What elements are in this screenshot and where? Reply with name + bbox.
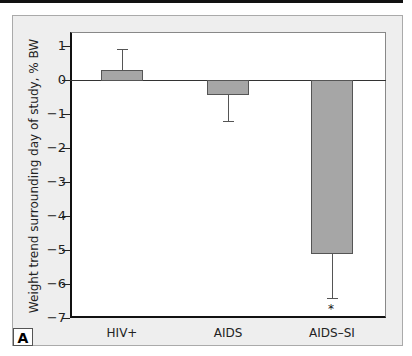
panel-label: A: [13, 328, 33, 346]
error-cap-aids-si: [327, 298, 338, 299]
y-tick-label: −4: [47, 209, 66, 223]
y-tick-label: −6: [47, 277, 66, 291]
error-cap-aids: [223, 121, 234, 122]
y-tick-label: 1: [58, 39, 66, 53]
error-bar-hiv: [122, 49, 123, 70]
y-tick-label: −3: [47, 175, 66, 189]
y-tick-label: −2: [47, 141, 66, 155]
error-bar-aids-si: [332, 254, 333, 298]
error-bar-aids: [228, 95, 229, 121]
x-label-hiv: HIV+: [82, 326, 162, 340]
bar-aids-si: [311, 80, 353, 254]
y-tick-label: −1: [47, 107, 66, 121]
y-tick-label: 0: [58, 73, 66, 87]
bar-aids: [207, 80, 249, 95]
error-cap-hiv: [117, 49, 128, 50]
bar-hiv: [101, 70, 143, 81]
x-label-aids: AIDS: [188, 326, 268, 340]
top-rule: [0, 0, 403, 3]
y-tick-label: −5: [47, 243, 66, 257]
significance-marker: *: [328, 302, 334, 316]
y-tick-label: −7: [47, 311, 66, 325]
y-axis-label: Weight trend surrounding day of study, %…: [27, 26, 41, 326]
x-label-aids-si: AIDS–SI: [292, 326, 372, 340]
